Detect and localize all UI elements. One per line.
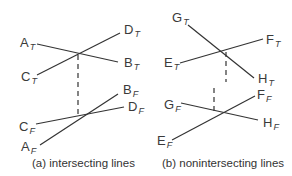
- label-D-F: DF: [128, 100, 144, 116]
- label-C-F: CF: [19, 120, 35, 136]
- label-E-F: EF: [157, 134, 172, 150]
- line-EF-FF: [172, 96, 255, 140]
- label-C-T: CT: [21, 70, 37, 86]
- caption-b: (b) nonintersecting lines: [162, 157, 284, 169]
- diagram-canvas: [0, 0, 292, 176]
- label-F-F: FF: [257, 88, 271, 104]
- label-A-F: AF: [21, 140, 36, 156]
- label-B-F: BF: [123, 83, 138, 99]
- label-H-T: HT: [258, 72, 274, 88]
- label-B-T: BT: [124, 56, 139, 72]
- caption-a: (a) intersecting lines: [32, 157, 135, 169]
- line-CF-DF: [36, 107, 124, 124]
- label-H-F: HF: [263, 116, 279, 132]
- line-ET-FT: [180, 39, 263, 63]
- label-D-T: DT: [124, 23, 140, 39]
- label-F-T: FT: [266, 33, 280, 49]
- label-A-T: AT: [20, 36, 35, 52]
- line-GF-HF: [181, 103, 258, 120]
- line-AF-BF: [40, 94, 118, 145]
- label-G-F: GF: [164, 98, 181, 114]
- label-G-T: GT: [172, 11, 189, 27]
- label-E-T: ET: [164, 56, 179, 72]
